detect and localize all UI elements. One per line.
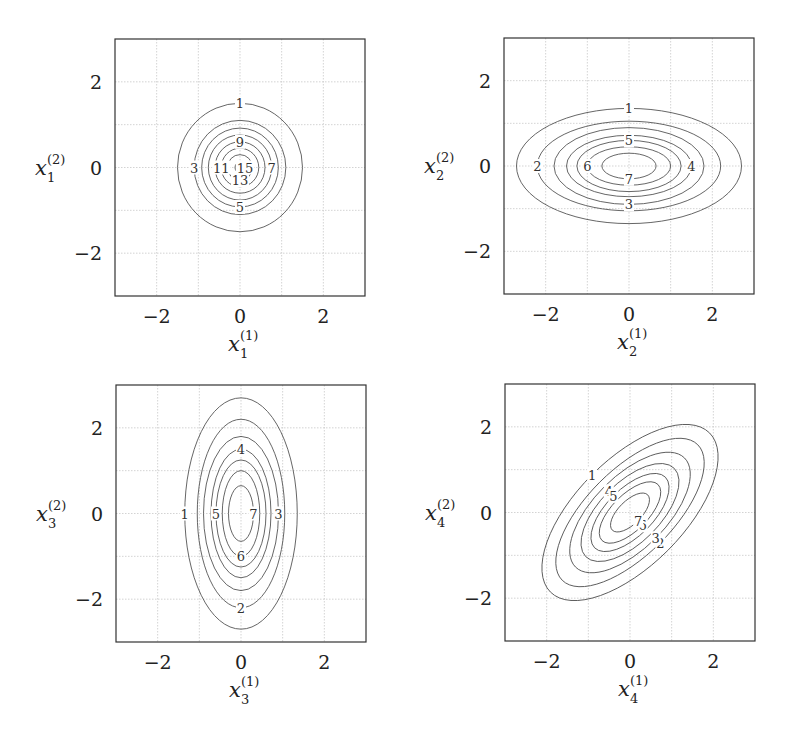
contour-label: 5: [236, 200, 244, 215]
x-axis-label: x(1)3: [229, 674, 259, 707]
svg-text:3: 3: [241, 692, 249, 707]
svg-text:(2): (2): [47, 152, 65, 167]
svg-text:(1): (1): [630, 673, 648, 688]
svg-text:2: 2: [436, 168, 444, 183]
y-tick-label: 0: [480, 502, 492, 524]
contour-label: 7: [634, 514, 642, 529]
y-axis-label: x(2)4: [425, 497, 455, 530]
svg-text:(1): (1): [629, 326, 647, 341]
svg-text:(1): (1): [240, 328, 258, 343]
x-tick-label: 0: [623, 303, 635, 325]
svg-text:4: 4: [630, 691, 638, 706]
x-tick-label: −2: [533, 650, 561, 672]
x-tick-label: 2: [317, 305, 329, 327]
x-tick-label: 2: [318, 651, 330, 673]
contour-label: 3: [274, 507, 282, 522]
contour-label: 3: [652, 531, 660, 546]
contour-label: 6: [583, 159, 591, 174]
x-tick-label: 2: [706, 303, 718, 325]
svg-text:x: x: [424, 154, 436, 178]
svg-text:x: x: [425, 501, 437, 525]
y-tick-label: 0: [91, 503, 103, 525]
svg-text:1: 1: [47, 170, 55, 185]
contour-label: 1: [588, 468, 596, 483]
svg-text:x: x: [617, 330, 629, 354]
svg-text:x: x: [228, 332, 240, 356]
svg-text:x: x: [36, 502, 48, 526]
contour-label: 3: [625, 197, 633, 212]
svg-text:2: 2: [629, 344, 637, 359]
x-tick-label: 0: [235, 651, 247, 673]
contour-label: 11: [213, 161, 230, 176]
y-tick-label: 2: [91, 417, 103, 439]
y-tick-label: 2: [480, 416, 492, 438]
svg-text:(2): (2): [48, 498, 66, 513]
y-tick-label: 0: [90, 157, 102, 179]
contour-label: 6: [237, 549, 245, 564]
grid: [505, 384, 755, 641]
x-tick-label: −2: [144, 651, 172, 673]
contour-label: 4: [237, 442, 245, 457]
x-axis-label: x(1)4: [618, 673, 648, 706]
x-tick-label: 0: [624, 650, 636, 672]
svg-text:(1): (1): [241, 674, 259, 689]
y-tick-label: 2: [479, 70, 491, 92]
contour-panel-1: 13579111315−202−202x(1)1x(2)1: [35, 39, 365, 361]
svg-text:(2): (2): [437, 497, 455, 512]
svg-text:x: x: [618, 677, 630, 701]
x-tick-label: 2: [707, 650, 719, 672]
svg-text:x: x: [229, 678, 241, 702]
contour-panel-4: 1234567−202−202x(1)4x(2)4: [425, 384, 755, 706]
contour-label: 1: [181, 507, 189, 522]
contour-label: 1: [236, 96, 244, 111]
svg-text:x: x: [35, 156, 47, 180]
y-axis-label: x(2)3: [36, 498, 66, 531]
y-tick-label: −2: [463, 240, 491, 262]
y-tick-label: 0: [479, 155, 491, 177]
x-axis-label: x(1)2: [617, 326, 647, 359]
y-axis-label: x(2)1: [35, 152, 65, 185]
y-tick-label: −2: [464, 587, 492, 609]
x-tick-label: −2: [532, 303, 560, 325]
svg-text:(2): (2): [436, 150, 454, 165]
y-tick-label: −2: [74, 242, 102, 264]
contour-label: 15: [237, 161, 254, 176]
contour-panel-3: 1234567−202−202x(1)3x(2)3: [36, 385, 366, 707]
contour-label: 1: [625, 101, 633, 116]
y-axis-label: x(2)2: [424, 150, 454, 183]
contour-label: 5: [609, 489, 617, 504]
contour-panel-2: 1234567−202−202x(1)2x(2)2: [424, 38, 754, 359]
contour-label: 7: [268, 161, 276, 176]
svg-text:4: 4: [437, 515, 445, 530]
contour-label: 2: [533, 159, 541, 174]
x-tick-label: −2: [143, 305, 171, 327]
svg-text:1: 1: [240, 346, 248, 361]
contour-label: 2: [237, 601, 245, 616]
contour-label: 4: [687, 159, 695, 174]
contour-label: 9: [236, 135, 244, 150]
svg-text:3: 3: [48, 516, 56, 531]
x-axis-label: x(1)1: [228, 328, 258, 361]
contour-label: 7: [625, 172, 633, 187]
contour-label: 13: [232, 173, 249, 188]
contour-label: 3: [190, 161, 198, 176]
contour-figure: 13579111315−202−202x(1)1x(2)11234567−202…: [0, 0, 797, 738]
contour-label: 7: [249, 507, 257, 522]
x-tick-label: 0: [234, 305, 246, 327]
contour-label: 5: [625, 133, 633, 148]
y-tick-label: 2: [90, 71, 102, 93]
y-tick-label: −2: [75, 588, 103, 610]
contour-label: 5: [212, 507, 220, 522]
